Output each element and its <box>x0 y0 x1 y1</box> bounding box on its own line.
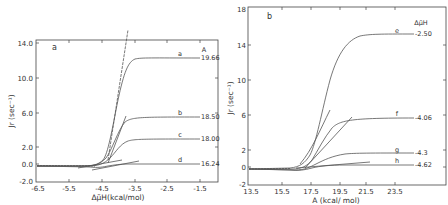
panel-b-xtick-4: 21.5 <box>358 188 374 196</box>
panel-b-curve-e <box>249 34 414 169</box>
panel-a-ytick-0: 14.0 <box>17 40 33 48</box>
panel-a-line-2 <box>92 161 139 170</box>
panel-b-ytick-3: 6 <box>242 112 247 120</box>
panel-a-curve-c <box>37 139 200 166</box>
panel-a-xtick-5: -1.5 <box>193 185 207 193</box>
panel-a-y-axis-label: Jr (sec⁻¹) <box>7 94 16 128</box>
panel-a-xtick-0: -6.5 <box>31 185 45 193</box>
panel-a-curve-c-value: 18.00 <box>201 135 220 143</box>
panel-a-curve-d-value: 16.24 <box>201 160 220 168</box>
panel-b-xtick-1: 15.5 <box>274 188 290 196</box>
panel-a-curve-b <box>37 117 200 166</box>
panel-a-legend-header: A <box>202 46 207 54</box>
panel-b-x-axis-label: A (kcal/ mol) <box>312 196 359 205</box>
panel-b-curve-f-tangent <box>305 117 352 168</box>
panel-b-ytick-1: 14 <box>237 42 246 50</box>
panel-b: 18 14 10 6 2 0 -2 13.5 15.5 17.5 19.5 21… <box>226 6 446 205</box>
panel-b-curve-h-value: -4.62 <box>415 161 432 169</box>
panel-a-ytick-4: 0.0 <box>22 161 33 169</box>
panel-a-curve-b-tangent <box>108 116 126 163</box>
panel-b-label: b <box>267 12 272 21</box>
panel-b-ytick-5: 0 <box>242 164 246 172</box>
panel-a-ytick-3: 2.0 <box>22 144 33 152</box>
panel-b-xtick-0: 13.5 <box>243 188 259 196</box>
panel-a-curve-a <box>37 58 200 166</box>
panel-a-xtick-4: -2.5 <box>160 185 174 193</box>
panel-b-xtick-5: 23.5 <box>387 188 403 196</box>
panel-a-curve-d-letter: d <box>178 156 182 164</box>
panel-a-label: a <box>52 43 57 52</box>
panel-a-curve-b-value: 18.50 <box>201 113 220 121</box>
panel-a-curve-a-value: 19.66 <box>201 54 220 62</box>
panel-b-ytick-2: 10 <box>237 77 246 85</box>
panel-b-curve-g-letter: g <box>395 146 399 154</box>
panel-a-xtick-2: -4.5 <box>95 185 109 193</box>
panel-b-curve-f <box>249 118 414 169</box>
panel-b-curve-h-letter: h <box>395 157 399 165</box>
panel-a-curve-c-letter: c <box>178 131 182 139</box>
panel-a-curve-a-tangent <box>108 30 128 160</box>
panel-a-ytick-1: 10.0 <box>17 75 33 83</box>
panel-a-curve-b-letter: b <box>178 109 182 117</box>
panel-b-ytick-4: 2 <box>242 147 246 155</box>
panel-a-x-axis-label: Δμ̃H(kcal/mol) <box>91 193 144 202</box>
panel-b-curve-e-value: -2.50 <box>415 30 432 38</box>
panel-b-curve-f-value: -4.06 <box>415 114 432 122</box>
figure: 14.0 10.0 6.0 2.0 0.0 -2.0 -6.5 -5.5 -4.… <box>0 0 448 205</box>
panel-a-frame <box>36 40 218 182</box>
panel-b-curve-g-value: -4.3 <box>415 149 428 157</box>
panel-b-xtick-3: 19.5 <box>332 188 348 196</box>
panel-b-xtick-2: 17.5 <box>303 188 319 196</box>
panel-a-ytick-2: 6.0 <box>22 110 33 118</box>
panel-a-curve-a-letter: a <box>178 50 182 58</box>
panel-a-xtick-1: -5.5 <box>62 185 76 193</box>
panel-a: 14.0 10.0 6.0 2.0 0.0 -2.0 -6.5 -5.5 -4.… <box>7 30 220 202</box>
panel-b-curve-f-letter: f <box>396 110 399 118</box>
panel-b-ytick-0: 18 <box>237 6 246 14</box>
panel-b-x-ticks: 13.5 15.5 17.5 19.5 21.5 23.5 <box>243 7 403 196</box>
panel-a-xtick-3: -3.5 <box>128 185 142 193</box>
panel-b-legend-header: Δμ̃H <box>414 19 428 27</box>
panel-b-curve-e-letter: e <box>395 27 399 35</box>
panel-b-curve-h <box>249 165 414 170</box>
panel-b-y-axis-label: Jr (sec⁻¹) <box>226 81 235 115</box>
panel-b-curve-g <box>249 153 414 170</box>
